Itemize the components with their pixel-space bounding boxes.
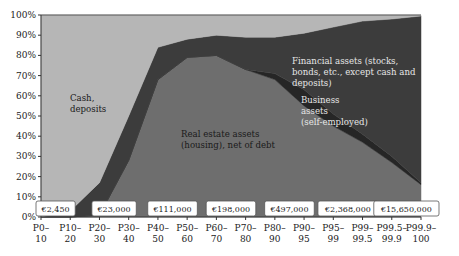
x-tick-label: P70–: [235, 223, 258, 233]
x-tick-label: 90: [269, 234, 281, 244]
x-tick-label: 60: [181, 234, 193, 244]
x-tick-label: 50: [152, 234, 164, 244]
financial-label-line-3: deposits): [292, 78, 332, 88]
x-axis: P0–10P10–20P20–30P30–40P40–50P50–60P60–7…: [33, 217, 437, 244]
y-axis: 0%10%20%30%40%50%60%70%80%90%100%: [10, 10, 41, 222]
x-tick-label: 99.5: [353, 234, 373, 244]
wealth-annotation-box: €2,450: [36, 201, 75, 216]
x-tick-label: 70: [211, 234, 223, 244]
wealth-annotation-box: €23,000: [92, 201, 136, 216]
x-tick-label: P99.5–: [376, 223, 407, 233]
y-tick-label: 30%: [16, 151, 36, 161]
cash-label-line-1: Cash,: [70, 93, 94, 103]
x-tick-label: P0–: [33, 223, 50, 233]
wealth-annotations: €2,450€23,000€111,000€198,000€497,000€2,…: [36, 201, 439, 216]
y-tick-label: 10%: [16, 192, 36, 202]
financial-label-line-2: bonds, etc., except cash and: [292, 67, 416, 77]
wealth-annotation-box: €198,000: [206, 201, 256, 216]
y-tick-label: 50%: [16, 111, 36, 121]
x-tick-label: P95–: [322, 223, 345, 233]
business-label-line-3: (self-employed): [301, 117, 368, 127]
x-tick-label: P60–: [205, 223, 228, 233]
wealth-annotation-label: €2,368,000: [324, 205, 371, 214]
wealth-annotation-label: €198,000: [211, 205, 250, 214]
y-tick-label: 80%: [16, 50, 36, 60]
x-tick-label: 10: [35, 234, 47, 244]
real-estate-label-line-1: Real estate assets: [181, 129, 259, 139]
x-tick-label: P10–: [59, 223, 82, 233]
plot-areas: [41, 15, 421, 217]
y-tick-label: 70%: [16, 71, 36, 81]
x-tick-label: 30: [94, 234, 106, 244]
x-tick-label: P30–: [118, 223, 141, 233]
business-label-line-2: assets: [301, 106, 328, 116]
wealth-annotation-label: €497,000: [269, 205, 308, 214]
wealth-annotation-label: €2,450: [41, 205, 70, 214]
wealth-annotation-label: €111,000: [152, 205, 191, 214]
wealth-annotation-box: €15,650,000: [374, 201, 439, 216]
wealth-annotation-label: €15,650,000: [380, 205, 432, 214]
y-tick-label: 0%: [22, 212, 37, 222]
x-tick-label: 40: [123, 234, 135, 244]
wealth-annotation-label: €23,000: [97, 205, 131, 214]
y-tick-label: 20%: [16, 172, 36, 182]
stacked-area-chart: 0%10%20%30%40%50%60%70%80%90%100% P0–10P…: [0, 0, 459, 256]
wealth-annotation-box: €111,000: [148, 201, 198, 216]
x-tick-label: P50–: [176, 223, 199, 233]
wealth-annotation-box: €497,000: [265, 201, 315, 216]
real-estate-label-line-2: (housing), net of debt: [181, 140, 276, 150]
x-tick-label: 95: [298, 234, 310, 244]
x-tick-label: 20: [65, 234, 77, 244]
x-tick-label: P40–: [147, 223, 170, 233]
x-tick-label: 99: [328, 234, 340, 244]
y-tick-label: 60%: [16, 91, 36, 101]
x-tick-label: P99–: [352, 223, 375, 233]
y-tick-label: 100%: [10, 10, 36, 20]
x-tick-label: 100: [412, 234, 429, 244]
x-tick-label: P90–: [293, 223, 316, 233]
x-tick-label: 80: [240, 234, 252, 244]
y-tick-label: 90%: [16, 30, 36, 40]
business-label-line-1: Business: [301, 95, 339, 105]
x-tick-label: P99.9–: [406, 223, 437, 233]
financial-label-line-1: Financial assets (stocks,: [292, 56, 398, 66]
x-tick-label: P80–: [264, 223, 287, 233]
x-tick-label: P20–: [88, 223, 111, 233]
x-tick-label: 99.9: [382, 234, 402, 244]
y-tick-label: 40%: [16, 131, 36, 141]
cash-label-line-2: deposits: [70, 104, 106, 114]
wealth-annotation-box: €2,368,000: [318, 201, 378, 216]
